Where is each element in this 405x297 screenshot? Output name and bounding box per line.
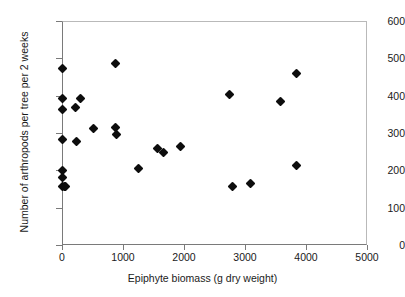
y-axis-tick-label: 300	[353, 128, 405, 138]
x-axis-tick	[306, 245, 307, 250]
x-axis-tick-label: 0	[32, 252, 92, 263]
x-axis-tick	[62, 245, 63, 250]
x-axis-tick	[123, 245, 124, 250]
x-axis-title: Epiphyte biomass (g dry weight)	[0, 272, 405, 284]
y-axis-tick-label: 200	[353, 165, 405, 175]
y-axis-tick	[56, 133, 62, 134]
y-axis-tick-label: 100	[353, 203, 405, 213]
scatter-chart: 0100200300400500600 01000200030004000500…	[0, 0, 405, 297]
y-axis-tick-label: 600	[353, 16, 405, 26]
y-axis-tick	[56, 58, 62, 59]
y-axis-tick-label: 0	[353, 240, 405, 250]
y-axis-title: Number of arthropods per tree per 2 week…	[18, 20, 30, 244]
y-axis-tick-label: 500	[353, 53, 405, 63]
x-axis-tick-label: 3000	[215, 252, 275, 263]
x-axis-tick-label: 1000	[93, 252, 153, 263]
x-axis-tick	[184, 245, 185, 250]
x-axis-tick-label: 4000	[276, 252, 336, 263]
y-axis-tick-label: 400	[353, 91, 405, 101]
plot-area	[62, 21, 367, 245]
x-axis-tick	[245, 245, 246, 250]
x-axis-tick-label: 5000	[337, 252, 397, 263]
y-axis-tick	[56, 21, 62, 22]
x-axis-tick-label: 2000	[154, 252, 214, 263]
y-axis-tick	[56, 208, 62, 209]
x-axis-tick	[367, 245, 368, 250]
